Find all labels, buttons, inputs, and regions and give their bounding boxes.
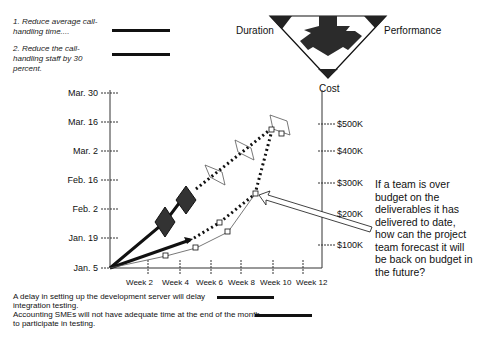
y2-tick-100k: $100K [337, 240, 363, 250]
x-tick-week-2: Week 2 [126, 278, 153, 287]
risk-2-bar [255, 314, 312, 317]
y-tick-feb-2: Feb. 2 [38, 204, 98, 214]
y-tick-mar-16: Mar. 16 [38, 117, 98, 127]
risk-1-bar [217, 296, 274, 299]
diagram-graphics [0, 0, 479, 341]
x-tick-week-4: Week 4 [162, 278, 189, 287]
triple-constraint-triangle-icon [270, 16, 386, 78]
risk-2: Accounting SMEs will not have adequate t… [13, 310, 263, 328]
y2-tick-400k: $400K [337, 146, 363, 156]
risk-1: A delay in setting up the development se… [13, 292, 213, 310]
y2-tick-300k: $300K [337, 178, 363, 188]
y2-tick-200k: $200K [337, 209, 363, 219]
y-tick-jan-19: Jan. 19 [38, 233, 98, 243]
forecast-question: If a team is over budget on the delivera… [375, 178, 477, 278]
y-tick-mar-30: Mar. 30 [38, 88, 98, 98]
y2-tick-500k: $500K [337, 119, 363, 129]
x-tick-week-8: Week 8 [228, 278, 255, 287]
y-tick-feb-16: Feb. 16 [38, 175, 98, 185]
x-tick-week-6: Week 6 [196, 278, 223, 287]
x-tick-week-12: Week 12 [296, 278, 327, 287]
y-tick-jan-5: Jan. 5 [38, 263, 98, 273]
x-tick-week-10: Week 10 [260, 278, 291, 287]
y-tick-mar-2: Mar. 2 [38, 146, 98, 156]
